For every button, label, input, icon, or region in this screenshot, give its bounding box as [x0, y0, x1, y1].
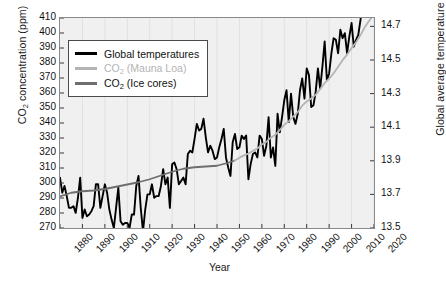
legend-item[interactable]: CO2 (Mauna Loa) [75, 61, 199, 76]
x-tick-1890: 1890 [94, 231, 118, 255]
legend-label-subscript: 2 [120, 67, 124, 76]
legend-label: CO2 (Ice cores) [104, 77, 176, 91]
x-tick-1930: 1930 [184, 231, 208, 255]
x-tick-1970: 1970 [273, 231, 297, 255]
x-tick-1980: 1980 [296, 231, 320, 255]
legend-label: CO2 (Mauna Loa) [104, 62, 186, 76]
legend-swatch-icon [75, 67, 97, 70]
x-tick-2020: 2020 [386, 231, 410, 255]
legend-swatch-icon [75, 82, 97, 85]
x-tick-2000: 2000 [341, 231, 365, 255]
legend: Global temperaturesCO2 (Mauna Loa)CO2 (I… [68, 40, 208, 97]
legend-swatch-icon [75, 52, 97, 55]
x-tick-1900: 1900 [116, 231, 140, 255]
legend-label: Global temperatures [104, 48, 199, 60]
x-tick-1880: 1880 [72, 231, 96, 255]
x-tick-1920: 1920 [161, 231, 185, 255]
series-line-co2-ice-cores [60, 161, 235, 197]
x-tick-1950: 1950 [229, 231, 253, 255]
x-tick-1990: 1990 [318, 231, 342, 255]
x-tick-1910: 1910 [139, 231, 163, 255]
x-tick-1940: 1940 [206, 231, 230, 255]
legend-item[interactable]: Global temperatures [75, 46, 199, 61]
x-tick-2010: 2010 [363, 231, 387, 255]
legend-item[interactable]: CO2 (Ice cores) [75, 76, 199, 91]
legend-label-subscript: 2 [120, 82, 124, 91]
x-tick-1960: 1960 [251, 231, 275, 255]
